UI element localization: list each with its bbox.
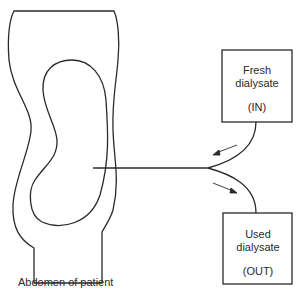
outflow-arrow-icon (213, 183, 233, 191)
peritoneal-cavity-outline (30, 60, 107, 225)
fresh-in-label: (IN) (222, 101, 292, 114)
used-dialysate-label: Used dialysate (OUT) (223, 228, 293, 278)
used-line1: Used (223, 228, 293, 241)
abdomen-caption: Abdomen of patient (18, 276, 113, 289)
abdomen-outline (8, 11, 118, 283)
inflow-arrowhead-icon (213, 150, 220, 155)
fresh-line1: Fresh (222, 64, 292, 77)
fresh-dialysate-label: Fresh dialysate (IN) (222, 64, 292, 114)
fresh-line2: dialysate (222, 77, 292, 90)
inflow-tube (208, 122, 256, 168)
outflow-arrowhead-icon (230, 188, 237, 193)
used-out-label: (OUT) (223, 265, 293, 278)
used-line2: dialysate (223, 241, 293, 254)
